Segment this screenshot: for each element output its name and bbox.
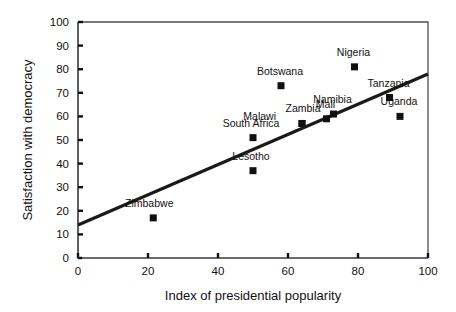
point-label: Botswana [257,65,303,77]
y-tick-label: 0 [63,252,69,264]
y-tick-label: 20 [56,205,69,217]
x-tick-label: 80 [352,265,365,277]
point-label: Lesotho [232,150,270,162]
x-axis-title: Index of presidential popularity [165,288,342,303]
data-point: Botswana [257,65,303,90]
point-marker [330,111,337,118]
y-tick-label: 30 [56,181,69,193]
scatter-chart-figure: 020406080100 0102030405060708090100 Zimb… [0,0,456,312]
y-tick-label: 10 [56,228,69,240]
x-tick-label: 100 [418,265,437,277]
point-marker [250,134,257,141]
y-axis-title: Satisfaction with democracy [20,59,35,221]
point-marker [278,82,285,89]
y-tick-label: 90 [56,40,69,52]
x-tick-label: 0 [75,265,81,277]
data-point: Uganda [381,95,418,120]
y-tick-label: 60 [56,110,69,122]
point-marker [397,113,404,120]
x-tick-label: 60 [282,265,295,277]
point-label: Zimbabwe [125,197,174,209]
data-point: Nigeria [337,46,370,70]
chart-canvas: 020406080100 0102030405060708090100 Zimb… [0,0,456,312]
y-tick-label: 40 [56,158,69,170]
y-tick-label: 70 [56,87,69,99]
data-points: ZimbabweLesothoSouth AfricaBotswanaZambi… [125,46,418,222]
point-marker [299,120,306,127]
point-marker [150,214,157,221]
point-marker [250,167,257,174]
x-tick-label: 20 [142,265,155,277]
point-label: Uganda [381,95,418,107]
y-tick-label: 100 [50,16,69,28]
y-tick-label: 80 [56,63,69,75]
point-label: Nigeria [337,46,370,58]
y-tick-label: 50 [56,134,69,146]
point-marker [351,63,358,70]
x-axis-ticks: 020406080100 [75,253,438,277]
point-label: Malawi [243,110,276,122]
point-label: Tanzania [367,77,409,89]
point-marker [323,115,330,122]
data-point: Lesotho [232,150,270,175]
point-label: Namibia [313,93,352,105]
x-tick-label: 40 [212,265,225,277]
data-point: Zimbabwe [125,197,174,222]
